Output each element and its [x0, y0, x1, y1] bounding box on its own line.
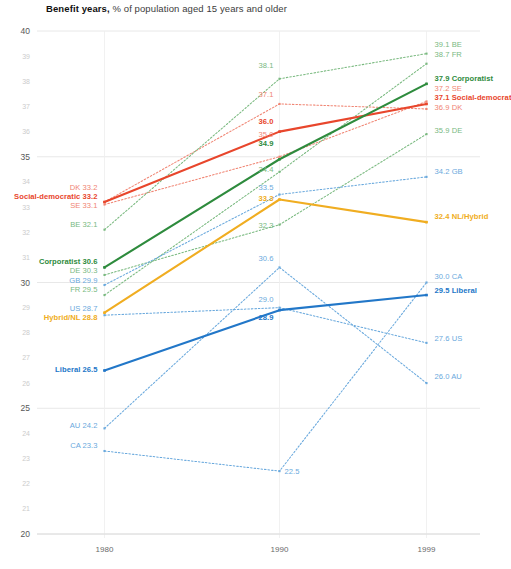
label-left-hybrid-nl: Hybrid/NL 28.8 — [44, 313, 98, 322]
data-point-marker — [278, 309, 281, 312]
y-tick-label-minor: 24 — [22, 430, 30, 437]
label-right-corporatist: 37.9 Corporatist — [435, 74, 494, 83]
label-left-be: BE 32.1 — [70, 220, 97, 229]
label-left-corporatist: Corporatist 30.6 — [39, 257, 98, 266]
x-tick-label: 1980 — [96, 545, 114, 554]
label-left-ca: CA 23.3 — [70, 441, 97, 450]
label-left-social-democratic: Social-democratic 33.2 — [14, 192, 97, 201]
y-tick-label-minor: 22 — [22, 480, 30, 487]
y-tick-label-minor: 33 — [22, 204, 30, 211]
data-point-marker — [103, 369, 106, 372]
data-point-marker — [278, 78, 280, 80]
y-tick-label: 20 — [21, 529, 31, 539]
label-mid-gb: 33.5 — [259, 183, 274, 192]
data-point-marker — [278, 103, 280, 105]
label-right-be: 39.1 BE — [435, 40, 462, 49]
series-line-liberal — [105, 295, 427, 370]
y-tick-label-minor: 26 — [22, 380, 30, 387]
label-right-fr: 38.7 FR — [435, 50, 463, 59]
y-tick-label-minor: 21 — [22, 505, 30, 512]
y-tick-label-minor: 39 — [22, 53, 30, 60]
y-tick-label-minor: 27 — [22, 354, 30, 361]
label-mid-ca: 22.5 — [285, 467, 300, 476]
data-point-marker — [425, 53, 427, 55]
label-mid-us: 29.0 — [259, 295, 274, 304]
y-tick-label-minor: 23 — [22, 455, 30, 462]
data-point-marker — [425, 63, 427, 65]
data-point-marker — [278, 266, 280, 268]
data-point-marker — [103, 314, 105, 316]
y-tick-label: 30 — [21, 278, 31, 288]
label-right-ca: 30.0 CA — [435, 272, 464, 281]
y-tick-label: 35 — [21, 152, 31, 162]
data-point-marker — [278, 224, 280, 226]
y-axis-ticks: 2025303540212223242627282931323334363738… — [21, 26, 31, 539]
series-line-ca — [105, 283, 427, 472]
data-point-marker — [103, 427, 105, 429]
label-mid-de: 32.3 — [259, 221, 274, 230]
data-point-marker — [103, 274, 105, 276]
x-axis-ticks: 198019901999 — [96, 545, 436, 554]
y-tick-label-minor: 28 — [22, 329, 30, 336]
chart-container: Benefit years, % of population aged 15 y… — [0, 0, 511, 569]
label-left-fr: FR 29.5 — [70, 285, 97, 294]
label-right-hybrid-nl: 32.4 NL/Hybrid — [435, 212, 489, 221]
data-point-marker — [103, 203, 105, 205]
data-point-marker — [425, 382, 427, 384]
label-mid-be: 38.1 — [259, 61, 274, 70]
label-left-liberal: Liberal 26.5 — [55, 365, 98, 374]
y-tick-label-minor: 31 — [22, 254, 30, 261]
data-point-marker — [425, 133, 427, 135]
data-point-marker — [103, 284, 105, 286]
data-point-marker — [103, 294, 105, 296]
data-point-marker — [425, 342, 427, 344]
data-point-marker — [425, 294, 428, 297]
series-line-corporatist — [105, 84, 427, 268]
data-point-marker — [278, 193, 280, 195]
y-tick-label-minor: 38 — [22, 78, 30, 85]
y-tick-label-minor: 36 — [22, 128, 30, 135]
label-mid-social-democratic: 36.0 — [259, 117, 274, 126]
label-left-dk: DK 33.2 — [70, 183, 98, 192]
y-tick-label-minor: 37 — [22, 103, 30, 110]
data-point-marker — [278, 307, 280, 309]
label-left-de: DE 30.3 — [70, 266, 98, 275]
data-point-marker — [425, 100, 427, 102]
line-chart-svg: 2025303540212223242627282931323334363738… — [0, 0, 511, 569]
label-mid-fr: 34.4 — [259, 165, 274, 174]
label-mid-liberal: 28.9 — [259, 313, 274, 322]
label-left-se: SE 33.1 — [70, 201, 97, 210]
label-right-de: 35.9 DE — [435, 126, 463, 135]
label-mid-au: 30.6 — [259, 254, 274, 263]
y-tick-label-minor: 32 — [22, 229, 30, 236]
series-line-au — [105, 267, 427, 428]
data-point-marker — [103, 311, 106, 314]
label-mid-dk: 37.1 — [259, 90, 274, 99]
y-tick-label: 40 — [21, 26, 31, 36]
data-point-marker — [103, 266, 106, 269]
data-point-marker — [103, 450, 105, 452]
label-right-liberal: 29.5 Liberal — [435, 286, 477, 295]
label-right-gb: 34.2 GB — [435, 167, 463, 176]
label-left-gb: GB 29.9 — [69, 276, 97, 285]
data-point-marker — [278, 198, 281, 201]
data-point-marker — [103, 229, 105, 231]
y-tick-label: 25 — [21, 403, 31, 413]
label-mid-hybrid-nl: 33.3 — [259, 194, 274, 203]
label-right-social-democratic: 37.1 Social-democratic — [435, 93, 511, 102]
y-tick-label-minor: 29 — [22, 304, 30, 311]
data-point-marker — [425, 83, 428, 86]
data-point-marker — [278, 470, 280, 472]
x-tick-label: 1999 — [418, 545, 436, 554]
label-right-se: 37.2 SE — [435, 84, 462, 93]
label-mid-se: 35.0 — [259, 130, 274, 139]
data-point-marker — [278, 171, 280, 173]
data-point-marker — [278, 158, 281, 161]
label-right-us: 27.6 US — [435, 334, 463, 343]
data-labels: Social-democratic 33.236.037.1 Social-de… — [14, 40, 511, 476]
data-point-marker — [425, 221, 428, 224]
data-point-marker — [103, 201, 106, 204]
label-mid-corporatist: 34.9 — [259, 139, 274, 148]
data-point-marker — [278, 156, 280, 158]
data-point-marker — [425, 108, 427, 110]
